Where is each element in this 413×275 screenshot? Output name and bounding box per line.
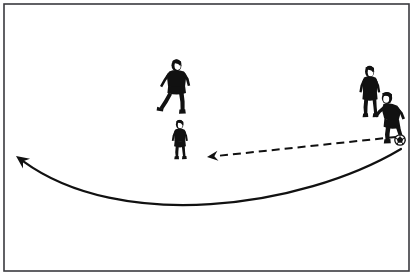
soccer-ball [395,135,405,145]
diagram-figure: Line drawing of four soccer players on a… [0,0,413,275]
diagram-canvas [0,0,413,275]
field-background [0,0,413,275]
